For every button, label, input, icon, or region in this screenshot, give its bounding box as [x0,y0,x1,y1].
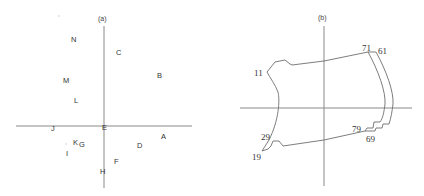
point-label-b: B [157,71,162,80]
panel-a-title: (a) [98,15,107,23]
point-label-c: C [116,48,122,57]
figure-canvas: (a) N C B M L J E A K G D I F H (b) [0,0,424,196]
faint-dot [65,143,66,144]
point-label-l: L [74,96,78,105]
point-label-71: 71 [362,43,371,53]
point-label-29: 29 [261,132,271,142]
shape-outline-outer [365,52,393,131]
point-label-g: G [79,140,85,149]
point-label-k: K [73,138,78,147]
point-label-69: 69 [366,134,376,144]
point-label-n: N [71,35,76,44]
point-label-i: I [66,149,68,158]
panel-a: (a) N C B M L J E A K G D I F H [16,15,192,188]
figure: (a) N C B M L J E A K G D I F H (b) [0,0,424,196]
panel-b-title: (b) [318,14,327,22]
point-label-h: H [100,167,105,176]
point-label-11: 11 [254,68,263,78]
point-label-61: 61 [378,46,387,56]
panel-b: (b) 71 61 11 79 69 29 19 [240,14,412,186]
point-label-19: 19 [252,152,262,162]
point-label-a: A [161,132,166,141]
point-label-f: F [114,157,119,166]
point-label-79: 79 [352,124,362,134]
point-label-d: D [137,141,143,150]
faint-dot [58,15,60,17]
point-label-m: M [63,76,69,85]
point-label-e: E [102,123,107,132]
point-label-j: J [51,124,55,133]
